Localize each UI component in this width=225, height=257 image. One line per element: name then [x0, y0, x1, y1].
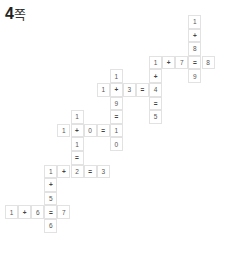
equals-cell: =	[149, 97, 162, 111]
number-cell: 6	[44, 219, 57, 233]
number-cell: 5	[44, 192, 57, 206]
equals-cell: =	[110, 110, 123, 124]
number-cell: 9	[188, 69, 201, 83]
number-cell: 7	[57, 205, 70, 219]
number-cell: 5	[149, 110, 162, 124]
number-cell: 1	[97, 83, 110, 97]
equals-cell: =	[97, 124, 110, 138]
number-cell: 8	[202, 56, 215, 70]
number-cell: 1	[71, 110, 84, 124]
number-cell: 1	[57, 124, 70, 138]
equals-cell: =	[136, 83, 149, 97]
number-cell: 2	[71, 165, 84, 179]
number-cell: 1	[71, 137, 84, 151]
number-cell: 9	[110, 97, 123, 111]
page-title: 4쪽	[5, 6, 26, 22]
plus-cell: +	[18, 205, 31, 219]
number-cell: 3	[123, 83, 136, 97]
number-cell: 0	[84, 124, 97, 138]
number-cell: 1	[110, 124, 123, 138]
equals-cell: =	[188, 56, 201, 70]
number-cell: 3	[97, 165, 110, 179]
number-cell: 1	[5, 205, 18, 219]
number-cell: 6	[31, 205, 44, 219]
equals-cell: =	[84, 165, 97, 179]
plus-cell: +	[110, 83, 123, 97]
number-cell: 4	[149, 83, 162, 97]
number-cell: 1	[110, 69, 123, 83]
number-cell: 8	[188, 42, 201, 56]
page-number: 4	[5, 5, 14, 22]
plus-cell: +	[149, 69, 162, 83]
equals-cell: =	[44, 205, 57, 219]
number-cell: 1	[149, 56, 162, 70]
number-cell: 1	[44, 165, 57, 179]
plus-cell: +	[188, 29, 201, 43]
page-suffix: 쪽	[14, 7, 26, 22]
plus-cell: +	[44, 178, 57, 192]
number-cell: 0	[110, 137, 123, 151]
plus-cell: +	[71, 124, 84, 138]
plus-cell: +	[162, 56, 175, 70]
plus-cell: +	[57, 165, 70, 179]
number-cell: 1	[188, 15, 201, 29]
equals-cell: =	[71, 151, 84, 165]
number-cell: 7	[175, 56, 188, 70]
